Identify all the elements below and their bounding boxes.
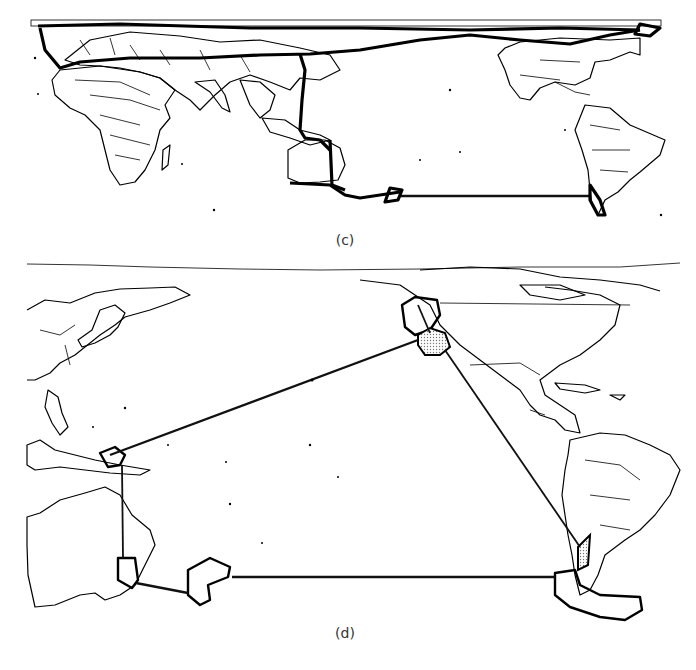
- australia-landmass: [288, 140, 345, 183]
- japan: [78, 305, 125, 347]
- caribbean-islands: [555, 383, 625, 400]
- route-network-c: [40, 24, 660, 215]
- route-westcoast-chile: [445, 350, 580, 547]
- arctic-outline-d: [27, 263, 680, 300]
- arctic-outline: [31, 20, 661, 30]
- africa-landmass: [52, 66, 175, 185]
- map-panel-c: (c): [0, 0, 696, 230]
- southeast-asia-islands: [27, 390, 150, 475]
- eurasia-landmass: [65, 32, 340, 110]
- region-chile-shaded: [578, 535, 590, 570]
- route-alaska-westcoast: [418, 305, 430, 333]
- north-america-landmass: [498, 38, 640, 100]
- route-papua-tasmania: [122, 465, 123, 558]
- region-tasmania: [118, 558, 138, 588]
- route-regions: [100, 297, 642, 620]
- pacific-islands-c: [34, 57, 662, 216]
- panel-caption-c: (c): [0, 232, 693, 248]
- madagascar: [162, 145, 170, 170]
- route-network-d: [110, 305, 580, 593]
- world-map-c: [0, 0, 696, 230]
- australia-landmass-d: [27, 487, 155, 607]
- south-asia-landmass: [195, 80, 330, 145]
- south-america-landmass-d: [562, 433, 680, 595]
- pacific-map-d: [0, 255, 696, 645]
- north-america-landmass-d: [360, 280, 630, 433]
- route-tasmania-nz: [136, 583, 188, 593]
- panel-caption-d: (d): [0, 625, 693, 641]
- route-westcoast-papua: [110, 340, 418, 455]
- region-patagonia: [555, 570, 642, 620]
- region-new-zealand: [188, 558, 230, 605]
- map-panel-d: (d): [0, 255, 696, 645]
- east-asia-landmass: [27, 287, 190, 380]
- pacific-islands-d: [92, 379, 371, 646]
